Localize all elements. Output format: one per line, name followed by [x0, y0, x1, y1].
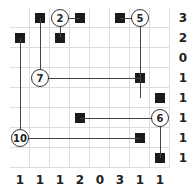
grid-cell[interactable]: [110, 48, 130, 68]
connector-line: [20, 138, 140, 139]
column-clue: 0: [90, 173, 110, 187]
row-clue: 1: [176, 111, 190, 125]
grid-cell[interactable]: [110, 148, 130, 168]
grid-cell[interactable]: [150, 28, 170, 48]
grid-cell[interactable]: [150, 8, 170, 28]
number-circle: 5: [131, 9, 149, 27]
grid-cell[interactable]: [10, 8, 30, 28]
grid-cell[interactable]: [90, 28, 110, 48]
grid-cell[interactable]: [70, 88, 90, 108]
connector-line: [40, 78, 140, 79]
grid-cell[interactable]: [150, 68, 170, 88]
grid-cell[interactable]: [30, 88, 50, 108]
grid-cell[interactable]: [50, 88, 70, 108]
column-clue: 1: [10, 173, 30, 187]
grid-cell[interactable]: [110, 28, 130, 48]
connector-line: [140, 18, 141, 98]
grid-cell[interactable]: [10, 148, 30, 168]
puzzle-grid: 257610: [10, 8, 170, 168]
column-clue: 1: [30, 173, 50, 187]
column-clue: 1: [130, 173, 150, 187]
number-circle: 10: [11, 129, 29, 147]
grid-cell[interactable]: [30, 108, 50, 128]
number-circle: 2: [51, 9, 69, 27]
grid-cell[interactable]: [90, 8, 110, 28]
column-clue: 2: [70, 173, 90, 187]
connector-line: [20, 38, 21, 138]
column-clue: 1: [50, 173, 70, 187]
grid-cell[interactable]: [130, 148, 150, 168]
number-circle: 7: [31, 69, 49, 87]
grid-cell[interactable]: [90, 148, 110, 168]
row-clue: 2: [176, 31, 190, 45]
row-clue: 1: [176, 131, 190, 145]
grid-cell[interactable]: [30, 148, 50, 168]
grid-cell[interactable]: [70, 148, 90, 168]
connector-line: [80, 118, 160, 119]
row-clue: 1: [176, 91, 190, 105]
column-clue: 1: [150, 173, 170, 187]
grid-cell[interactable]: [50, 148, 70, 168]
column-clue: 3: [110, 173, 130, 187]
grid-cell[interactable]: [70, 48, 90, 68]
grid-cell[interactable]: [50, 48, 70, 68]
filled-square: [155, 93, 165, 103]
row-clue: 1: [176, 151, 190, 165]
grid-cell[interactable]: [90, 88, 110, 108]
row-clue: 1: [176, 71, 190, 85]
row-clue: 0: [176, 51, 190, 65]
grid-cell[interactable]: [90, 48, 110, 68]
row-clue: 3: [176, 11, 190, 25]
grid-cell[interactable]: [70, 28, 90, 48]
grid-cell[interactable]: [110, 88, 130, 108]
grid-cell[interactable]: [150, 48, 170, 68]
grid-cell[interactable]: [50, 108, 70, 128]
number-circle: 6: [151, 109, 169, 127]
